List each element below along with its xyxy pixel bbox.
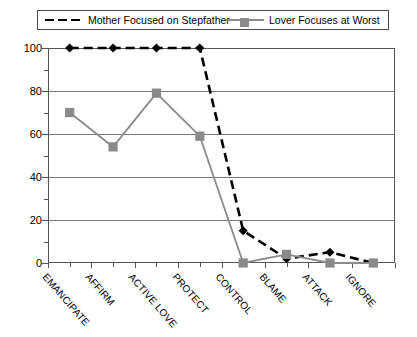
line-chart: Mother Focused on Stepfather Lover Focus… — [0, 0, 417, 337]
x-tick-mark — [135, 263, 136, 268]
x-tick-mark — [352, 263, 353, 268]
x-tick-label: CONTROL — [214, 272, 255, 317]
x-minor-tick-mark — [330, 263, 331, 267]
x-tick-mark — [178, 263, 179, 268]
x-minor-tick-mark — [243, 263, 244, 267]
x-tick-label: ACTIVE LOVE — [127, 272, 179, 330]
x-tick-mark — [48, 263, 49, 268]
x-tick-label: BLAME — [257, 272, 287, 305]
x-tick-mark — [222, 263, 223, 268]
x-tick-mark — [91, 263, 92, 268]
x-tick-label: EMANCIPATE — [40, 272, 91, 328]
x-minor-tick-mark — [373, 263, 374, 267]
x-minor-tick-mark — [287, 263, 288, 267]
x-tick-mark — [265, 263, 266, 268]
x-tick-mark — [308, 263, 309, 268]
x-tick-label: PROTECT — [170, 272, 210, 316]
x-tick-label: ATTACK — [300, 272, 333, 308]
x-minor-tick-mark — [70, 263, 71, 267]
x-axis: EMANCIPATEAFFIRMACTIVE LOVEPROTECTCONTRO… — [0, 0, 417, 337]
x-minor-tick-mark — [200, 263, 201, 267]
x-tick-label: AFFIRM — [84, 272, 117, 308]
x-tick-mark — [395, 263, 396, 268]
x-minor-tick-mark — [113, 263, 114, 267]
x-tick-label: IGNORE — [344, 272, 378, 309]
x-minor-tick-mark — [156, 263, 157, 267]
